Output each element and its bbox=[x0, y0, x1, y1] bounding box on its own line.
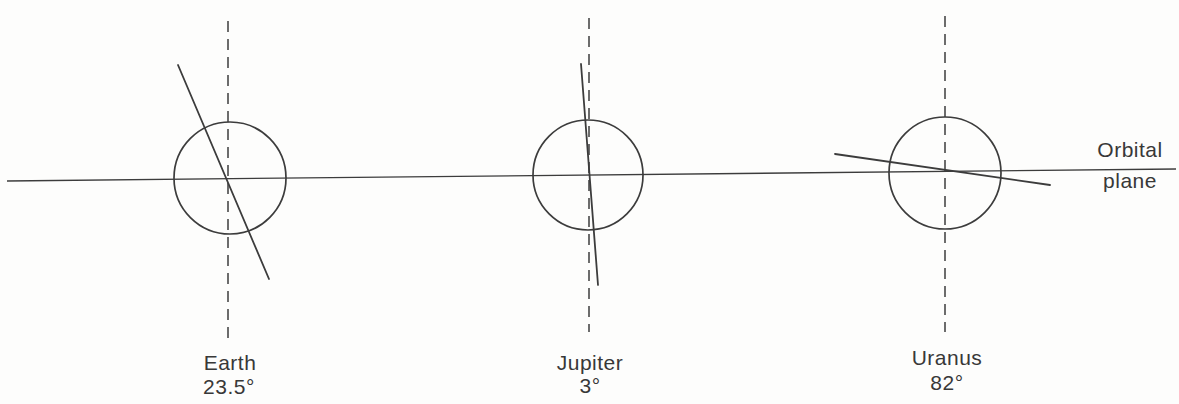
uranus-tilt-angle-label: 82° bbox=[930, 371, 963, 394]
planet-group-earth: Earth 23.5° bbox=[174, 21, 286, 398]
orbital-plane-label-line1: Orbital bbox=[1097, 138, 1162, 161]
planet-group-jupiter: Jupiter 3° bbox=[533, 18, 643, 397]
orbital-plane-label-line2: plane bbox=[1103, 169, 1157, 192]
diagram-canvas: Earth 23.5° Jupiter 3° Uranus 82° Orbita… bbox=[0, 0, 1179, 404]
axial-tilt-diagram: Earth 23.5° Jupiter 3° Uranus 82° Orbita… bbox=[0, 0, 1179, 404]
jupiter-name-label: Jupiter bbox=[557, 351, 624, 374]
earth-tilt-angle-label: 23.5° bbox=[203, 375, 255, 398]
uranus-rotation-axis-line bbox=[835, 154, 1050, 185]
jupiter-tilt-angle-label: 3° bbox=[579, 374, 600, 397]
earth-rotation-axis-line bbox=[178, 65, 269, 279]
uranus-name-label: Uranus bbox=[912, 346, 983, 369]
planet-group-uranus: Uranus 82° bbox=[835, 16, 1050, 394]
earth-name-label: Earth bbox=[204, 351, 257, 374]
